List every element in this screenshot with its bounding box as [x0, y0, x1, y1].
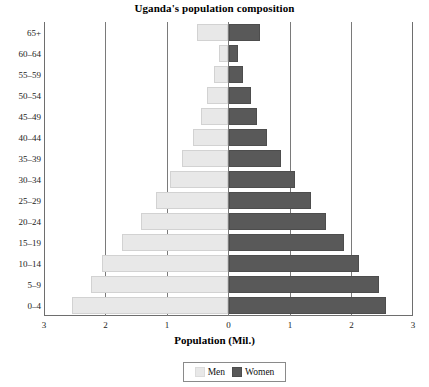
bar-women-65+	[229, 24, 261, 41]
plot-area	[44, 22, 413, 316]
y-tick-label-25-29: 25–29	[1, 196, 41, 206]
bar-men-10-14	[102, 255, 229, 272]
x-axis-label: Population (Mil.)	[0, 334, 429, 346]
bar-women-60-64	[229, 45, 239, 62]
y-tick-label-45-49: 45–49	[1, 112, 41, 122]
bar-men-55-59	[214, 66, 229, 83]
x-tick-label-5: 2	[342, 320, 362, 330]
bar-men-45-49	[201, 108, 228, 125]
y-tick-label-10-14: 10–14	[1, 259, 41, 269]
bar-row	[44, 255, 413, 272]
bar-row	[44, 297, 413, 314]
chart-title: Uganda's population composition	[0, 2, 429, 14]
bar-row	[44, 129, 413, 146]
y-axis-tick-labels: 65+60–6455–5950–5445–4940–4435–3930–3425…	[0, 22, 41, 316]
y-tick-label-0-4: 0–4	[1, 301, 41, 311]
y-tick-label-20-24: 20–24	[1, 217, 41, 227]
y-tick-label-40-44: 40–44	[1, 133, 41, 143]
bar-men-50-54	[207, 87, 229, 104]
bar-women-30-34	[229, 171, 295, 188]
bar-women-55-59	[229, 66, 244, 83]
bar-women-20-24	[229, 213, 327, 230]
bar-row	[44, 66, 413, 83]
bar-row	[44, 108, 413, 125]
bar-men-0-4	[72, 297, 229, 314]
legend-label-women: Women	[245, 367, 274, 377]
bar-men-35-39	[182, 150, 229, 167]
bar-women-45-49	[229, 108, 258, 125]
legend-entry-women: Women	[232, 367, 274, 377]
legend-swatch-women	[232, 367, 242, 377]
legend-swatch-men	[195, 367, 205, 377]
y-tick-label-50-54: 50–54	[1, 91, 41, 101]
bar-women-15-19	[229, 234, 344, 251]
x-axis-tick-labels: 3210123	[44, 320, 413, 332]
bar-women-35-39	[229, 150, 281, 167]
bar-row	[44, 192, 413, 209]
x-tick-label-2: 1	[157, 320, 177, 330]
y-tick-label-60-64: 60–64	[1, 49, 41, 59]
bar-men-30-34	[170, 171, 228, 188]
x-tick-label-4: 1	[280, 320, 300, 330]
bar-women-50-54	[229, 87, 251, 104]
bar-women-0-4	[229, 297, 386, 314]
x-tick-label-3: 0	[219, 320, 239, 330]
bar-men-5-9	[91, 276, 228, 293]
y-tick-label-65+: 65+	[1, 28, 41, 38]
bar-women-25-29	[229, 192, 311, 209]
bar-row	[44, 24, 413, 41]
population-pyramid-chart: Uganda's population composition 65+60–64…	[0, 0, 429, 387]
bar-row	[44, 171, 413, 188]
bar-men-15-19	[122, 234, 228, 251]
bar-women-40-44	[229, 129, 268, 146]
bar-men-65+	[197, 24, 229, 41]
y-tick-label-55-59: 55–59	[1, 70, 41, 80]
y-tick-label-15-19: 15–19	[1, 238, 41, 248]
x-tick-label-0: 3	[34, 320, 54, 330]
bar-men-25-29	[156, 192, 229, 209]
bar-row	[44, 87, 413, 104]
bar-row	[44, 276, 413, 293]
bar-row	[44, 150, 413, 167]
y-tick-label-35-39: 35–39	[1, 154, 41, 164]
bar-men-40-44	[193, 129, 228, 146]
x-tick-label-1: 2	[96, 320, 116, 330]
legend-entry-men: Men	[195, 367, 225, 377]
bar-row	[44, 45, 413, 62]
bar-women-10-14	[229, 255, 360, 272]
legend-label-men: Men	[208, 367, 225, 377]
bar-row	[44, 234, 413, 251]
y-tick-label-5-9: 5–9	[1, 280, 41, 290]
bar-women-5-9	[229, 276, 380, 293]
x-tick-label-6: 3	[403, 320, 423, 330]
bar-row	[44, 213, 413, 230]
bar-men-60-64	[219, 45, 229, 62]
bar-men-20-24	[141, 213, 229, 230]
y-tick-label-30-34: 30–34	[1, 175, 41, 185]
chart-legend: MenWomen	[183, 362, 286, 382]
